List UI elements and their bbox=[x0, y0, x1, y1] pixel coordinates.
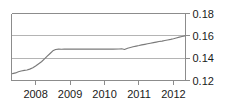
x-tick-label-2009: 2009 bbox=[58, 88, 82, 100]
y-tick-label-0.14: 0.14 bbox=[193, 52, 214, 64]
series-line-series-1 bbox=[13, 36, 185, 74]
x-tick-label-2011: 2011 bbox=[127, 88, 151, 100]
data-series bbox=[13, 36, 185, 74]
gridlines bbox=[12, 36, 186, 58]
line-chart: 0.180.160.140.12 20082009201020112012 bbox=[0, 0, 226, 111]
y-tick-label-0.16: 0.16 bbox=[193, 30, 214, 42]
y-axis-tick-labels: 0.180.160.140.12 bbox=[193, 8, 214, 87]
y-tick-label-0.18: 0.18 bbox=[193, 8, 214, 20]
axis-spines bbox=[12, 14, 186, 81]
x-tick-label-2012: 2012 bbox=[161, 88, 185, 100]
x-tick-label-2008: 2008 bbox=[23, 88, 47, 100]
y-tick-label-0.12: 0.12 bbox=[193, 75, 214, 87]
chart-canvas: 0.180.160.140.12 20082009201020112012 bbox=[0, 0, 226, 111]
x-tick-label-2010: 2010 bbox=[92, 88, 116, 100]
x-axis-tick-labels: 20082009201020112012 bbox=[23, 88, 185, 100]
